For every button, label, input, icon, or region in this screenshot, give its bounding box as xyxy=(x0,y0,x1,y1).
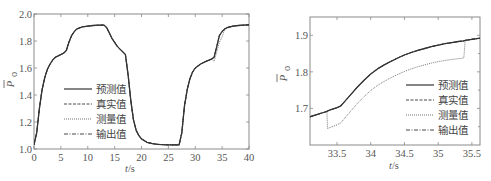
x-tick-label: 15 xyxy=(109,152,120,163)
y-axis-label: Po xyxy=(277,66,292,82)
y-tick-label: 2.0 xyxy=(19,9,32,20)
x-tick-label: 25 xyxy=(163,152,174,163)
y-tick-label: 1.2 xyxy=(19,117,32,128)
y-tick-label: 1.4 xyxy=(19,90,33,101)
y-axis-label: Po xyxy=(4,72,19,88)
svg-text:o: o xyxy=(8,72,19,77)
y-tick-label: 1.7 xyxy=(295,103,308,114)
left-plot: 05101520253035401.01.21.41.61.82.0预测值真实值… xyxy=(4,9,254,174)
right-plot: 33.53434.53535.51.71.81.9预测值真实值测量值输出值Pot… xyxy=(277,17,481,171)
x-axis-label: t/s xyxy=(125,163,135,174)
x-tick-label: 33.5 xyxy=(328,148,346,159)
x-axis-label: t/s xyxy=(389,160,399,171)
svg-text:o: o xyxy=(281,66,292,71)
series-line-1 xyxy=(34,25,249,145)
legend-label: 测量值 xyxy=(438,109,469,121)
x-tick-label: 30 xyxy=(190,152,201,163)
legend-label: 输出值 xyxy=(96,128,127,140)
x-tick-label: 35.5 xyxy=(463,148,481,159)
x-tick-label: 20 xyxy=(136,152,147,163)
legend-label: 预测值 xyxy=(96,83,127,95)
svg-text:P: P xyxy=(5,80,16,88)
x-tick-label: 5 xyxy=(58,152,63,163)
chart-canvas: 05101520253035401.01.21.41.61.82.0预测值真实值… xyxy=(0,0,491,181)
x-tick-label: 35 xyxy=(217,152,228,163)
series-line-0 xyxy=(34,25,249,145)
series-line-3 xyxy=(34,25,249,145)
axis-frame xyxy=(34,14,249,149)
legend-label: 测量值 xyxy=(96,113,127,125)
x-tick-label: 40 xyxy=(244,152,255,163)
legend-label: 预测值 xyxy=(438,79,469,91)
y-tick-label: 1.0 xyxy=(19,144,32,155)
x-tick-label: 0 xyxy=(31,152,36,163)
legend-label: 真实值 xyxy=(96,98,127,110)
series-line-2 xyxy=(34,25,249,145)
x-tick-label: 10 xyxy=(83,152,94,163)
y-tick-label: 1.6 xyxy=(19,63,32,74)
svg-text:P: P xyxy=(278,74,289,82)
legend-label: 真实值 xyxy=(438,94,469,106)
x-tick-label: 34.5 xyxy=(395,148,413,159)
y-tick-label: 1.9 xyxy=(295,30,308,41)
x-tick-label: 34 xyxy=(365,148,376,159)
y-tick-label: 1.8 xyxy=(19,36,32,47)
y-tick-label: 1.8 xyxy=(295,67,308,78)
legend-label: 输出值 xyxy=(438,124,469,136)
x-tick-label: 35 xyxy=(433,148,444,159)
